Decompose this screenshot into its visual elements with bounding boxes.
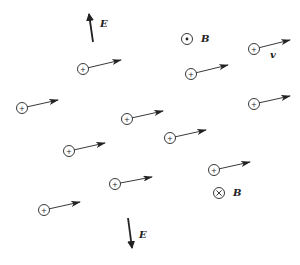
b-field-into-page-icon: B (214, 187, 242, 199)
e-field-arrow-icon (128, 218, 132, 248)
positive-charge-particle: + (209, 162, 251, 176)
e-field-arrow-up: E (89, 14, 108, 42)
particle-group: +++++++++++ (17, 40, 291, 216)
velocity-arrow-icon (259, 96, 290, 103)
b-field-label: B (232, 187, 241, 198)
e-field-arrow-icon (89, 14, 93, 42)
velocity-arrow-icon (120, 177, 152, 183)
positive-charge-particle: + (110, 177, 153, 190)
velocity-arrow-icon (259, 40, 290, 48)
e-field-label: E (99, 18, 108, 29)
plus-sign-icon: + (66, 148, 72, 156)
positive-charge-particle: + (186, 65, 229, 80)
plus-sign-icon: + (124, 116, 130, 124)
crossed-fields-diagram: +++++++++++ EE BB v (0, 0, 300, 265)
e-field-label: E (138, 229, 147, 240)
plus-sign-icon: + (80, 66, 86, 74)
plus-sign-icon: + (188, 71, 194, 79)
electric-field-group: EE (89, 14, 147, 248)
velocity-arrow-icon (219, 162, 250, 169)
plus-sign-icon: + (112, 181, 118, 189)
b-field-out-of-page-icon: B (182, 33, 210, 45)
plus-sign-icon: + (251, 46, 257, 54)
velocity-arrow-icon (132, 111, 163, 118)
positive-charge-particle: + (122, 111, 164, 125)
velocity-arrow-icon (27, 100, 58, 107)
plus-sign-icon: + (251, 101, 257, 109)
velocity-label: v (270, 49, 276, 60)
velocity-arrow-icon (196, 65, 228, 73)
positive-charge-particle: + (165, 130, 207, 144)
velocity-arrow-icon (74, 143, 105, 150)
positive-charge-particle: + (64, 143, 106, 157)
plus-sign-icon: + (167, 135, 173, 143)
e-field-arrow-down: E (128, 218, 147, 248)
positive-charge-particle: + (78, 60, 122, 75)
positive-charge-particle: + (249, 96, 291, 110)
velocity-arrow-icon (88, 60, 121, 68)
velocity-arrow-icon (175, 130, 206, 137)
velocity-arrow-icon (49, 202, 80, 209)
plus-sign-icon: + (19, 105, 25, 113)
plus-sign-icon: + (211, 167, 217, 175)
positive-charge-particle: + (17, 100, 59, 114)
positive-charge-particle: + (39, 202, 81, 216)
plus-sign-icon: + (41, 207, 47, 215)
b-field-label: B (200, 33, 209, 44)
